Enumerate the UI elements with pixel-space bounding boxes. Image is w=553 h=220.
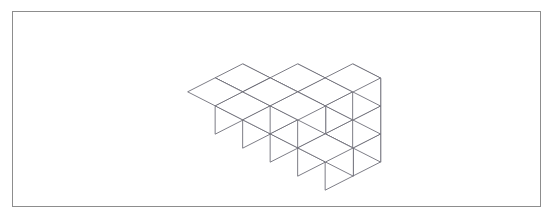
isometric-cube-stack-diagram (0, 0, 553, 220)
cube-group (188, 64, 381, 190)
figure-page (0, 0, 553, 220)
